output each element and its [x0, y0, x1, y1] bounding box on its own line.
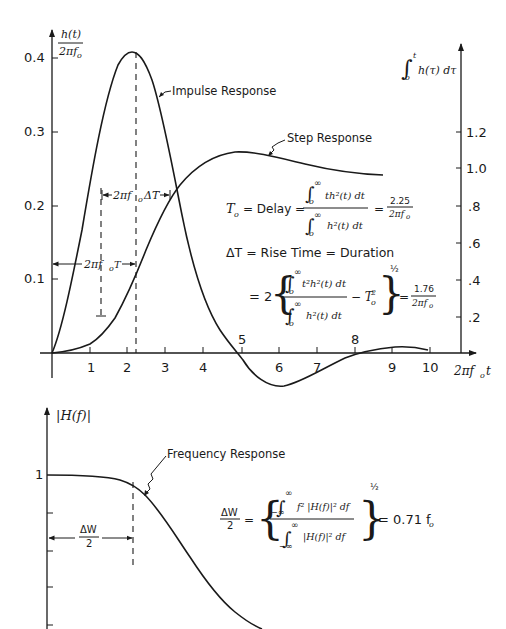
y-tick-label: 0.3 [24, 124, 45, 139]
h-f-y-ticks [47, 513, 53, 625]
x-tick-label: 3 [161, 360, 169, 375]
svg-text:T: T [114, 259, 122, 270]
svg-text:o: o [371, 298, 376, 307]
step-response-label: Step Response [268, 131, 372, 156]
svg-text:o: o [234, 210, 239, 219]
left-y-ticks: 0.4 0.3 0.2 0.1 [24, 50, 58, 286]
x-tick-label: 4 [199, 360, 207, 375]
svg-text:t: t [413, 51, 417, 60]
svg-text:∞: ∞ [285, 488, 293, 498]
svg-text:=: = [244, 513, 254, 527]
svg-text:ΔW: ΔW [221, 507, 238, 518]
svg-text:o: o [406, 213, 410, 221]
impulse-response-label: Impulse Response [159, 84, 276, 98]
svg-text:1.76: 1.76 [414, 284, 434, 294]
svg-text:2πf: 2πf [411, 298, 429, 308]
svg-text:2: 2 [86, 538, 92, 549]
x-tick-label: 9 [388, 360, 396, 375]
svg-text:2πf: 2πf [112, 189, 133, 202]
svg-text:∞: ∞ [294, 299, 302, 309]
right-tick-label: 1.0 [466, 161, 487, 176]
svg-text:t: t [486, 364, 491, 378]
svg-text:o: o [289, 319, 294, 328]
svg-text:o: o [309, 197, 314, 206]
y-tick-one: 1 [35, 467, 43, 482]
svg-text:o: o [429, 520, 434, 529]
svg-text:2πf: 2πf [83, 258, 104, 271]
svg-text:h²(t) dt: h²(t) dt [306, 310, 343, 321]
svg-text:∞: ∞ [291, 520, 299, 530]
svg-text:2: 2 [227, 520, 233, 531]
svg-text:o: o [138, 195, 143, 204]
right-tick-label: .4 [468, 273, 480, 288]
x-tick-label: 10 [422, 360, 439, 375]
bandwidth-interval: ΔW 2 [49, 524, 132, 549]
time-domain-chart: 0.4 0.3 0.2 0.1 h(t) 2πf o 1.2 1.0 .8 .6… [24, 28, 491, 386]
svg-text:h(τ) dτ: h(τ) dτ [418, 64, 457, 77]
x-tick-label: 5 [238, 332, 246, 347]
frequency-response-label: Frequency Response [144, 447, 285, 496]
svg-text:= 2: = 2 [249, 289, 272, 304]
svg-text:Step Response: Step Response [287, 131, 372, 145]
svg-text:o: o [77, 51, 82, 60]
figure: 0.4 0.3 0.2 0.1 h(t) 2πf o 1.2 1.0 .8 .6… [0, 0, 506, 629]
delay-equation: T o = Delay = ∫ ∞ o th²(t) dt ∫ ∞ o h²(t… [226, 178, 413, 238]
svg-text:2: 2 [370, 288, 376, 297]
svg-text:o: o [405, 73, 410, 82]
svg-text:h(t): h(t) [61, 28, 81, 41]
svg-text:∞: ∞ [314, 210, 322, 220]
y-tick-label: 0.2 [24, 198, 45, 213]
svg-text:t²h²(t) dt: t²h²(t) dt [302, 278, 347, 289]
svg-text:o: o [429, 302, 433, 310]
svg-text:o: o [480, 371, 485, 380]
svg-text:o: o [289, 287, 294, 296]
svg-text:½: ½ [390, 264, 399, 274]
bandwidth-equation: ΔW 2 = { ∫ ∞ −∞ f² |H(f)|² df ∫ ∞ −∞ |H(… [220, 482, 434, 551]
right-tick-label: .2 [468, 310, 480, 325]
svg-text:½: ½ [370, 482, 379, 492]
right-tick-label: 1.2 [466, 125, 487, 140]
svg-text:f² |H(f)|² df: f² |H(f)|² df [296, 501, 351, 513]
svg-text:2.25: 2.25 [390, 196, 410, 206]
t0-interval: 2πf o T [53, 258, 135, 273]
x-tick-label: 8 [351, 332, 359, 347]
x-tick-label: 2 [123, 360, 131, 375]
svg-text:−∞: −∞ [271, 508, 284, 517]
x-axis-label: 2πf o t [453, 364, 491, 380]
svg-text:−∞: −∞ [279, 542, 292, 551]
svg-text:=: = [399, 290, 409, 304]
svg-text:= 0.71 f: = 0.71 f [378, 512, 431, 527]
left-y-axis-label: h(t) 2πf o [58, 28, 83, 60]
y-tick-label: 0.4 [24, 50, 45, 65]
rise-time-equation: ΔT = Rise Time = Duration = 2 { ∫ ∞ o t²… [226, 245, 436, 328]
y-tick-label: 0.1 [24, 271, 45, 286]
right-tick-label: .8 [468, 199, 480, 214]
svg-text:ΔT: ΔT [143, 189, 161, 202]
svg-text:Frequency Response: Frequency Response [167, 447, 285, 461]
right-tick-label: .6 [468, 236, 480, 251]
svg-text:o: o [309, 229, 314, 238]
x-tick-label: 1 [87, 360, 95, 375]
svg-text:|H(f)|² df: |H(f)|² df [303, 531, 347, 543]
right-y-axis-label: ∫ t o h(τ) dτ [401, 51, 457, 82]
frequency-response-curve [47, 475, 262, 629]
svg-text:ΔT = Rise Time = Duration: ΔT = Rise Time = Duration [226, 245, 394, 260]
svg-text:h²(t) dt: h²(t) dt [327, 220, 364, 231]
h-f-y-axis-label: |H(f)| [56, 408, 91, 423]
svg-text:2πf: 2πf [453, 364, 477, 378]
svg-text:Impulse Response: Impulse Response [172, 84, 276, 98]
svg-text:∞: ∞ [294, 267, 302, 277]
frequency-domain-chart: 1 |H(f)| ΔW 2 Frequency Response ΔW 2 = … [35, 408, 434, 629]
svg-text:ΔW: ΔW [80, 524, 97, 535]
svg-text:2πf: 2πf [388, 209, 406, 219]
svg-text:= Delay =: = Delay = [243, 202, 305, 216]
svg-text:=: = [374, 202, 384, 216]
x-tick-label: 6 [275, 360, 283, 375]
svg-text:th²(t) dt: th²(t) dt [325, 190, 366, 201]
svg-text:∞: ∞ [314, 178, 322, 188]
